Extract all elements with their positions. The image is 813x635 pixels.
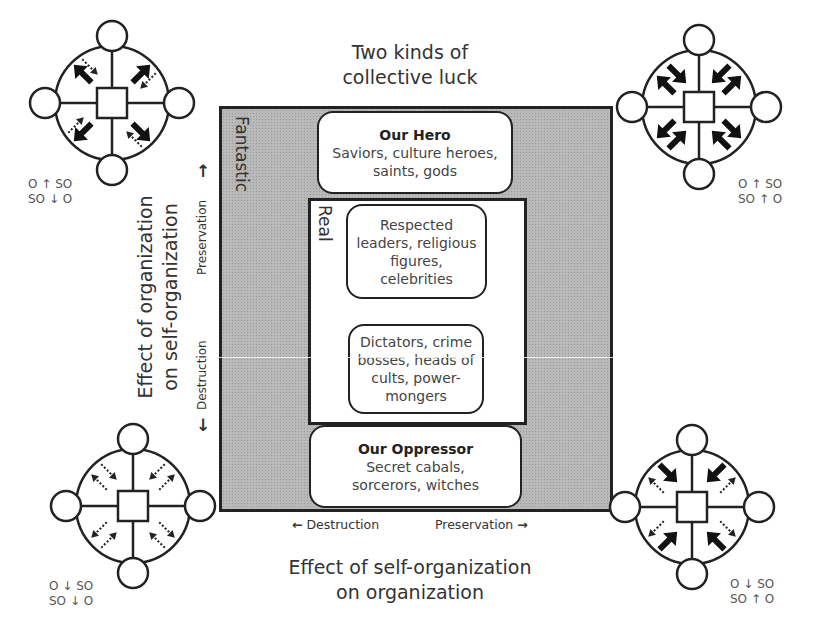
relation-bottom-left: O ↓ SO SO ↓ O	[49, 579, 93, 609]
relation-top-left-1: O ↑ SO	[28, 177, 72, 192]
network-top-right-icon	[617, 25, 781, 189]
relation-top-right: O ↑ SO SO ↑ O	[738, 177, 782, 207]
corner-diagrams	[0, 0, 813, 635]
relation-top-right-1: O ↑ SO	[738, 177, 782, 192]
relation-top-right-2: SO ↑ O	[738, 192, 782, 207]
network-bottom-right-icon	[610, 425, 774, 589]
relation-bottom-left-1: O ↓ SO	[49, 579, 93, 594]
network-bottom-left-icon	[51, 424, 215, 588]
relation-bottom-left-2: SO ↓ O	[49, 594, 93, 609]
relation-top-left: O ↑ SO SO ↓ O	[28, 177, 72, 207]
relation-bottom-right: O ↓ SO SO ↑ O	[730, 577, 774, 607]
relation-bottom-right-1: O ↓ SO	[730, 577, 774, 592]
network-top-left-icon	[30, 21, 194, 185]
relation-top-left-2: SO ↓ O	[28, 192, 72, 207]
relation-bottom-right-2: SO ↑ O	[730, 592, 774, 607]
